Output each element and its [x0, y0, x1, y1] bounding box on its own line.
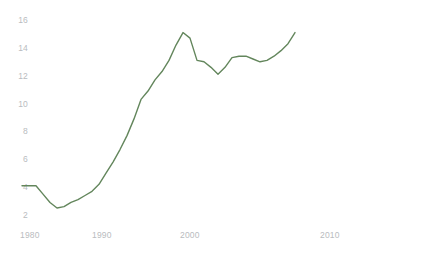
plot-area	[0, 0, 427, 256]
line-chart: 16 14 12 10 8 6 4 2 1980 1990 2000 2010	[0, 0, 427, 256]
data-line-series-1	[22, 33, 295, 209]
